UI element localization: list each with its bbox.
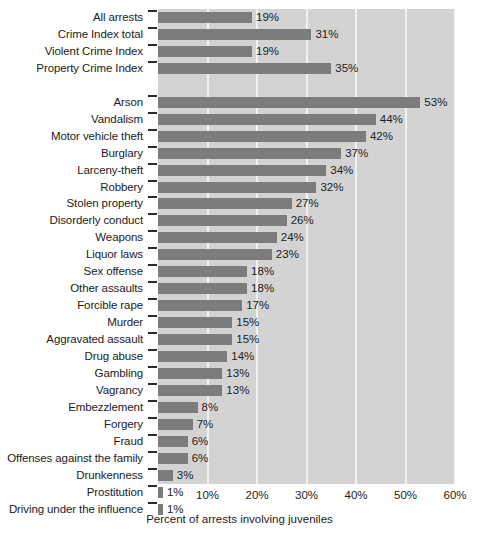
y-axis-tick: [148, 315, 157, 317]
bar: [158, 317, 232, 328]
bar-value-label: 1%: [167, 486, 184, 499]
y-axis-tick: [148, 383, 157, 385]
y-axis-tick: [148, 196, 157, 198]
bar-row: Larceny-theft34%: [0, 162, 479, 179]
bar-row: All arrests19%: [0, 9, 479, 26]
bar-row: Forcible rape17%: [0, 297, 479, 314]
bar-category-label: Drunkenness: [0, 469, 143, 482]
bar: [158, 351, 227, 362]
y-axis-tick: [148, 502, 157, 504]
bar-row: Weapons24%: [0, 229, 479, 246]
y-axis-tick: [148, 264, 157, 266]
y-axis-tick: [148, 366, 157, 368]
bar: [158, 249, 272, 260]
bar: [158, 402, 198, 413]
bar-row: Embezzlement8%: [0, 399, 479, 416]
bar-category-label: Arson: [0, 96, 143, 109]
bar-value-label: 15%: [236, 316, 259, 329]
bar-value-label: 24%: [281, 231, 304, 244]
bar-row: Disorderly conduct26%: [0, 212, 479, 229]
bar-value-label: 19%: [256, 45, 279, 58]
bar-category-label: Forcible rape: [0, 299, 143, 312]
bar: [158, 215, 287, 226]
bar: [158, 12, 252, 23]
bar-category-label: Stolen property: [0, 197, 143, 210]
bar: [158, 97, 420, 108]
y-axis-tick: [148, 349, 157, 351]
bar-category-label: Aggravated assault: [0, 333, 143, 346]
bar-row: Robbery32%: [0, 179, 479, 196]
x-axis-title: Percent of arrests involving juveniles: [0, 513, 479, 526]
y-axis-tick: [148, 468, 157, 470]
bar-row: Property Crime Index35%: [0, 60, 479, 77]
y-axis-tick: [148, 485, 157, 487]
bar-row: Aggravated assault15%: [0, 331, 479, 348]
y-axis-tick: [148, 400, 157, 402]
bar-value-label: 3%: [177, 469, 194, 482]
y-axis-tick: [148, 112, 157, 114]
bar: [158, 114, 376, 125]
bar-row: Forgery7%: [0, 416, 479, 433]
bar-value-label: 31%: [315, 28, 338, 41]
bar-category-label: Sex offense: [0, 265, 143, 278]
bar-value-label: 8%: [202, 401, 219, 414]
y-axis-tick: [148, 44, 157, 46]
bar-category-label: Vandalism: [0, 113, 143, 126]
bar-category-label: Liquor laws: [0, 248, 143, 261]
bar-category-label: Other assaults: [0, 282, 143, 295]
y-axis-tick: [148, 163, 157, 165]
bar-row: Liquor laws23%: [0, 246, 479, 263]
y-axis-tick: [148, 281, 157, 283]
bar: [158, 182, 316, 193]
bar-row: Motor vehicle theft42%: [0, 128, 479, 145]
bar-value-label: 13%: [226, 367, 249, 380]
x-tick-label: 20%: [237, 489, 277, 502]
bar-value-label: 19%: [256, 11, 279, 24]
bar: [158, 148, 341, 159]
bar-category-label: Larceny-theft: [0, 164, 143, 177]
y-axis-tick: [148, 434, 157, 436]
bar-category-label: Offenses against the family: [0, 452, 143, 465]
bar-value-label: 42%: [370, 130, 393, 143]
x-tick-label: 40%: [336, 489, 376, 502]
bar: [158, 266, 247, 277]
juvenile-arrests-bar-chart: All arrests19%Crime Index total31%Violen…: [0, 0, 479, 537]
bar-row: Sex offense18%: [0, 263, 479, 280]
bar-row: Murder15%: [0, 314, 479, 331]
bar-value-label: 44%: [380, 113, 403, 126]
y-axis-tick: [148, 417, 157, 419]
bar-value-label: 6%: [192, 452, 209, 465]
bar-row: Offenses against the family6%: [0, 450, 479, 467]
y-axis-tick: [148, 180, 157, 182]
y-axis-tick: [148, 247, 157, 249]
bar-category-label: Forgery: [0, 418, 143, 431]
bar-row: Drunkenness3%: [0, 467, 479, 484]
bar-category-label: Drug abuse: [0, 350, 143, 363]
bar: [158, 165, 326, 176]
bar-value-label: 53%: [424, 96, 447, 109]
bar-category-label: Property Crime Index: [0, 62, 143, 75]
bar: [158, 368, 222, 379]
bar: [158, 453, 188, 464]
y-axis-tick: [148, 298, 157, 300]
bar-row: Crime Index total31%: [0, 26, 479, 43]
y-axis-tick: [148, 27, 157, 29]
y-axis-tick: [148, 129, 157, 131]
bar-category-label: All arrests: [0, 11, 143, 24]
bar-value-label: 26%: [291, 214, 314, 227]
bar: [158, 232, 277, 243]
x-tick-label: 30%: [287, 489, 327, 502]
bar-value-label: 13%: [226, 384, 249, 397]
bar: [158, 487, 163, 498]
bar-row: Gambling13%: [0, 365, 479, 382]
bar-value-label: 23%: [276, 248, 299, 261]
bar: [158, 334, 232, 345]
bar: [158, 385, 222, 396]
bar: [158, 283, 247, 294]
bar-category-label: Motor vehicle theft: [0, 130, 143, 143]
bar-row: Violent Crime Index19%: [0, 43, 479, 60]
y-axis-tick: [148, 146, 157, 148]
bar-category-label: Prostitution: [0, 486, 143, 499]
bar-row: Arson53%: [0, 94, 479, 111]
y-axis-tick: [148, 10, 157, 12]
